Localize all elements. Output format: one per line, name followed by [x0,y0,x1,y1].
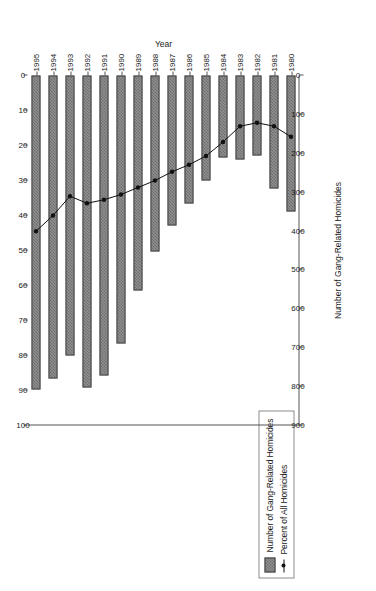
category-tick [240,71,241,75]
category-label-1984: 1984 [218,53,227,71]
number-axis-title: Number of Gang-Related Homicides [332,181,342,318]
percent-tick-label-30: 30 [18,176,27,185]
percent-tick-label-80: 80 [18,351,27,360]
legend-label-percent: Percent of All Homicides [278,464,288,554]
category-label-1980: 1980 [286,53,295,71]
percent-marker-1980 [288,134,292,138]
chart-legend: Number of Gang-Related Homicides Percent… [258,410,294,578]
percent-marker-1994 [50,213,54,217]
category-label-1988: 1988 [150,53,159,71]
category-label-1981: 1981 [269,53,278,71]
percent-marker-1983 [237,124,241,128]
category-tick [138,71,139,75]
category-tick [87,71,88,75]
category-label-1995: 1995 [31,53,40,71]
category-label-1987: 1987 [167,53,176,71]
category-label-1986: 1986 [184,53,193,71]
category-tick [53,71,54,75]
line-marker-icon [279,559,288,572]
category-tick [70,71,71,75]
legend-entry-line: Percent of All Homicides [276,416,290,572]
category-tick [189,71,190,75]
category-tick [36,71,37,75]
percent-tick-label-20: 20 [18,141,27,150]
percent-marker-1992 [84,201,88,205]
percent-marker-1991 [101,197,105,201]
plot-area: Percent of all Homicides Number of Gang-… [27,75,299,425]
category-label-1982: 1982 [252,53,261,71]
category-label-1983: 1983 [235,53,244,71]
category-label-1992: 1992 [82,53,91,71]
category-tick [274,71,275,75]
percent-tick-label-70: 70 [18,316,27,325]
category-axis-title: Year [154,38,171,48]
category-tick [291,71,292,75]
category-tick [257,71,258,75]
category-label-1991: 1991 [99,53,108,71]
category-tick [206,71,207,75]
bar-swatch-icon [264,557,275,572]
category-tick [155,71,156,75]
percent-marker-1995 [33,229,37,233]
percent-marker-1982 [254,120,258,124]
category-tick [104,71,105,75]
percent-tick-label-90: 90 [18,386,27,395]
category-label-1989: 1989 [133,53,142,71]
category-label-1994: 1994 [48,53,57,71]
percent-tick-label-10: 10 [18,106,27,115]
percent-tick-label-50: 50 [18,246,27,255]
percent-tick-label-0: 0 [20,71,24,80]
percent-marker-1993 [67,194,71,198]
category-tick [121,71,122,75]
percent-line-series [27,75,299,425]
category-label-1985: 1985 [201,53,210,71]
legend-entry-bars: Number of Gang-Related Homicides [262,416,276,572]
category-label-1990: 1990 [116,53,125,71]
percent-line [36,122,291,231]
percent-tick-label-60: 60 [18,281,27,290]
percent-tick-label-40: 40 [18,211,27,220]
category-tick [172,71,173,75]
chart-stage: Number of Gang-Related Homicides Percent… [0,0,376,591]
category-label-1993: 1993 [65,53,74,71]
category-tick [223,71,224,75]
legend-label-number: Number of Gang-Related Homicides [264,418,274,552]
percent-marker-1981 [271,124,275,128]
